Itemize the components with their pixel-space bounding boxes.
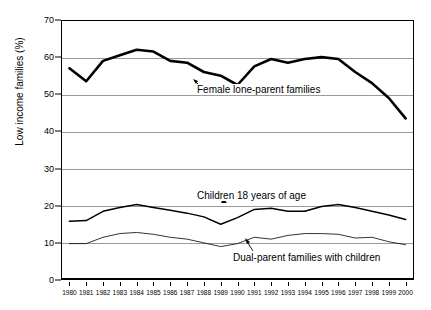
series-line-1 [69,205,405,225]
series-label-female-lone-parent: Female lone-parent families [196,84,321,95]
chart-figure: 010203040506070 Low income families (%) … [0,0,431,310]
series-label-children: Children 18 years of age [196,190,307,201]
series-label-dual-parent: Dual-parent families with children [232,252,381,263]
series-layer [0,0,431,310]
series-line-2 [69,232,405,246]
